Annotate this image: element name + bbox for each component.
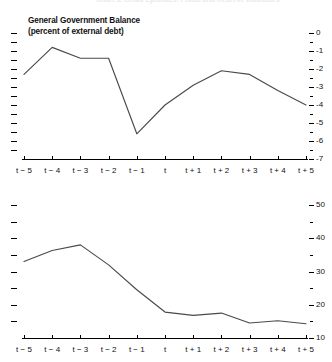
x-axis-tick-label: t + 5 — [298, 166, 314, 175]
y-axis-tick-label: -7 — [316, 154, 323, 163]
y-axis-tick-label: 30 — [316, 267, 325, 276]
x-axis-tick-label: t − 4 — [44, 166, 60, 175]
x-axis-tick-label: t − 2 — [101, 166, 117, 175]
figure-page: Chart 3. Crisis Episodes: Fiscal and Res… — [0, 0, 332, 362]
y-axis-tick-label: 10 — [316, 333, 325, 342]
y-axis-tick-label: 0 — [316, 28, 320, 37]
chart-plot-area-bottom — [0, 181, 332, 362]
x-axis-tick-label: t + 1 — [185, 166, 201, 175]
chart-title-top: General Government Balance — [28, 15, 140, 26]
x-axis-tick-label: t − 5 — [16, 345, 32, 354]
y-axis-tick-label: -2 — [316, 64, 323, 73]
x-axis-tick-label: t + 3 — [242, 166, 258, 175]
y-axis-tick-label: 50 — [316, 200, 325, 209]
y-axis-tick-label: 20 — [316, 300, 325, 309]
x-axis-tick-label: t + 2 — [213, 166, 229, 175]
x-axis-tick-label: t − 2 — [101, 345, 117, 354]
x-axis-tick-label: t + 4 — [270, 166, 286, 175]
chart-panel-foreign-reserves: Foreign Reserves of the Central Bank (pe… — [0, 181, 332, 362]
x-axis-tick-label: t − 5 — [16, 166, 32, 175]
y-axis-tick-label: -6 — [316, 136, 323, 145]
x-axis-tick-label: t − 3 — [72, 345, 88, 354]
x-axis-tick-label: t − 1 — [129, 166, 145, 175]
y-axis-tick-label: 40 — [316, 233, 325, 242]
y-axis-tick-label: -5 — [316, 118, 323, 127]
chart-panel-general-government-balance: General Government Balance (percent of e… — [0, 0, 332, 181]
y-axis-tick-label: -3 — [316, 82, 323, 91]
x-axis-tick-label: t — [164, 166, 166, 175]
y-axis-tick-label: -4 — [316, 100, 323, 109]
y-axis-tick-label: -1 — [316, 46, 323, 55]
x-axis-tick-label: t — [164, 345, 166, 354]
chart-subtitle-top: (percent of external debt) — [28, 26, 124, 37]
x-axis-tick-label: t − 1 — [129, 345, 145, 354]
x-axis-tick-label: t + 5 — [298, 345, 314, 354]
x-axis-tick-label: t + 1 — [185, 345, 201, 354]
x-axis-tick-label: t + 3 — [242, 345, 258, 354]
x-axis-tick-label: t + 4 — [270, 345, 286, 354]
x-axis-tick-label: t − 3 — [72, 166, 88, 175]
x-axis-tick-label: t + 2 — [213, 345, 229, 354]
x-axis-tick-label: t − 4 — [44, 345, 60, 354]
